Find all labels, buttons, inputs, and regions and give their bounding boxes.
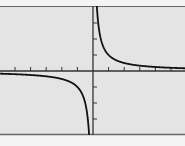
graph-plot [0, 0, 185, 146]
